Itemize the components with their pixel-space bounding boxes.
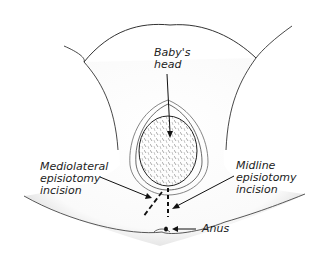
label-babys-head: Baby's head	[154, 47, 191, 71]
episiotomy-diagram	[0, 0, 320, 269]
right-thigh-line	[256, 26, 292, 58]
left-thigh-line	[64, 46, 84, 62]
anus-mark	[164, 227, 168, 232]
babys-head	[139, 116, 197, 186]
label-anus: Anus	[202, 223, 229, 235]
label-midline: Midline episiotomy incision	[236, 160, 297, 196]
label-mediolateral: Mediolateral episiotomy incision	[40, 161, 108, 197]
